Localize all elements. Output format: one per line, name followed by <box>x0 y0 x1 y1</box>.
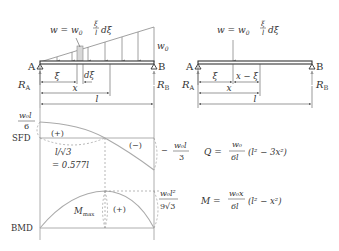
reaction-a-label: RA <box>17 79 31 92</box>
sfd-zero-location-value: = 0.577l <box>52 160 89 170</box>
sfd-equation-num: w₀ <box>232 140 243 149</box>
dim-xi-right-label: ξ <box>213 71 219 81</box>
reaction-b-right-label: RB <box>315 79 329 92</box>
reaction-a-right-label: RA <box>181 79 195 92</box>
support-a-right-label: A <box>185 61 194 72</box>
sfd-end-num: w₀l <box>174 141 187 150</box>
sfd-equation-den: 6l <box>231 153 239 162</box>
bmd-equation-num: w₀x <box>229 189 244 198</box>
right-load-frac-den: l <box>262 29 264 37</box>
roller-support-b-icon <box>151 64 157 69</box>
beam-right <box>198 61 312 64</box>
sfd-label: SFD <box>12 133 31 143</box>
bending-moment-diagram: BMD Mmax (+) w₀l² 9√3 M = w₀x 6l (l² − x… <box>11 189 282 233</box>
load-element-strip <box>77 46 83 61</box>
dim-x-minus-xi-label: x − ξ <box>236 71 259 81</box>
dim-l-right-label: l <box>254 94 257 104</box>
point-load-label: w = w0 <box>217 25 250 36</box>
dim-xi-label: ξ <box>55 71 61 81</box>
right-load-frac-num: ξ <box>261 20 266 28</box>
beam-analysis-figure: w = w0 ξ l dξ w0 A B RA RB ξ <box>0 0 339 251</box>
load-frac-num: ξ <box>94 20 99 28</box>
sfd-zero-location: l/√3 <box>55 147 71 157</box>
load-leader-line <box>76 38 80 47</box>
dim-x-right-label: x <box>226 83 231 93</box>
support-b-label: B <box>158 61 165 72</box>
bmd-curve <box>40 191 154 228</box>
sfd-end-prefix: − <box>161 146 168 155</box>
roller-support-b-right-icon <box>309 64 315 69</box>
sfd-max-den: 6 <box>24 122 29 131</box>
bmd-max-num: w₀l² <box>160 189 176 198</box>
dim-dxi-label: dξ <box>84 70 95 80</box>
support-a-label: A <box>27 61 36 72</box>
sfd-positive-sign: (+) <box>51 129 64 138</box>
sfd-max-num: w₀l <box>19 111 32 120</box>
bmd-equation-lhs: M = <box>200 196 221 206</box>
bmd-max-label: Mmax <box>73 206 95 217</box>
reaction-b-label: RB <box>156 79 170 92</box>
distributed-load-arrows <box>57 32 138 61</box>
left-beam-diagram: w = w0 ξ l dξ w0 A B RA RB ξ <box>17 20 170 108</box>
dim-x-label: x <box>72 83 77 93</box>
load-frac-den: l <box>95 29 97 37</box>
bmd-equation-den: 6l <box>231 202 239 211</box>
support-b-right-label: B <box>316 61 323 72</box>
right-beam-diagram: w = w0 ξ l dξ A B RA RB ξ x − ξ x l <box>181 20 329 108</box>
bmd-equation-rhs: (l² − x²) <box>248 196 282 206</box>
sfd-end-den: 3 <box>179 153 184 162</box>
bmd-label: BMD <box>11 223 33 233</box>
sfd-equation-lhs: Q = <box>204 147 222 157</box>
dim-l-label: l <box>96 94 99 104</box>
right-load-label-tail: dξ <box>268 25 280 35</box>
bmd-positive-sign: (+) <box>113 205 126 214</box>
sfd-negative-sign: (−) <box>129 141 142 150</box>
sfd-equation-rhs: (l² − 3x²) <box>248 147 287 157</box>
load-intensity-label: w = w0 <box>50 25 83 36</box>
beam-left <box>40 61 154 64</box>
max-load-label: w0 <box>157 41 169 52</box>
load-label-tail: dξ <box>101 25 113 35</box>
bmd-max-den: 9√3 <box>160 202 175 211</box>
